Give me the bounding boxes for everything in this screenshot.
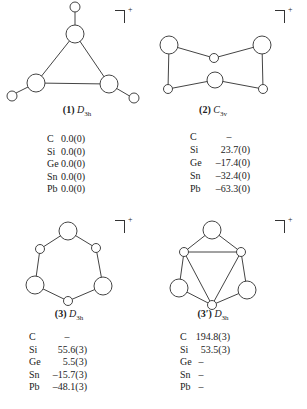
- energy-row: C–: [190, 130, 250, 143]
- structure-2-caption: (2) C3v: [176, 104, 250, 118]
- energy-value: 5.5(3): [47, 356, 87, 369]
- charge-sign: +: [288, 215, 293, 224]
- symmetry-sub: 3h: [84, 110, 91, 118]
- structure-3-panel: + (3) D3h C– Si55.6(3) Ge5.5(3) Sn–15.7(…: [0, 210, 154, 409]
- element: Sn: [180, 369, 194, 382]
- energy-value: –: [208, 130, 250, 143]
- atom-small: [129, 93, 139, 103]
- element: C: [190, 130, 208, 143]
- charge-bracket: [115, 10, 125, 23]
- energy-row: C194.8(3): [180, 331, 230, 344]
- symmetry-main: D: [214, 308, 221, 319]
- atom-small: [210, 54, 219, 63]
- energy-value: –17.4(0): [208, 156, 250, 169]
- energy-row: Sn–: [180, 369, 230, 382]
- element: Sn: [29, 369, 47, 382]
- atom-large: [170, 279, 188, 297]
- atom-large: [59, 222, 77, 240]
- symmetry-sub: 3h: [222, 314, 229, 322]
- structure-2-panel: + (2) C3v C– Si23.7(0) Ge–17.4(0) Sn–32.…: [154, 0, 307, 210]
- energy-value: 0.0(0): [61, 133, 85, 146]
- energy-value: 53.5(3): [194, 344, 230, 357]
- energy-value: 194.8(3): [194, 331, 230, 344]
- energy-row: C0.0(0): [47, 133, 85, 146]
- element: C: [47, 133, 61, 146]
- energy-value: 55.6(3): [47, 344, 87, 357]
- energy-value: –: [194, 381, 208, 394]
- charge-bracket: [115, 220, 125, 233]
- element: Sn: [47, 171, 61, 184]
- energy-row: Ge–: [180, 356, 230, 369]
- atom-small: [259, 85, 268, 94]
- structure-1-panel: + (1) D3h C0.0(0) Si0.0(0) Ge0.0(0) Sn0.…: [0, 0, 154, 210]
- energy-value: 23.7(0): [208, 143, 250, 156]
- atom-large: [94, 277, 112, 295]
- atom-large: [27, 74, 45, 92]
- element: Pb: [47, 183, 61, 196]
- element: Si: [29, 344, 47, 357]
- element: Si: [47, 146, 61, 159]
- energy-value: –: [194, 369, 208, 382]
- energy-value: 0.0(0): [61, 146, 85, 159]
- charge-sign: +: [128, 5, 133, 14]
- charge-sign: +: [128, 215, 133, 224]
- structure-3-caption: (3) D3h: [32, 308, 106, 322]
- atom-large: [26, 276, 44, 294]
- energy-row: Si0.0(0): [47, 146, 85, 159]
- energy-row: Si23.7(0): [190, 143, 250, 156]
- energy-row: Pb0.0(0): [47, 183, 85, 196]
- energy-row: Si53.5(3): [180, 344, 230, 357]
- atom-large: [203, 221, 221, 239]
- atom-small: [64, 297, 73, 306]
- charge-bracket: [275, 220, 285, 233]
- atom-small: [180, 248, 189, 257]
- atom-small: [36, 245, 45, 254]
- element: Ge: [180, 356, 194, 369]
- element: Pb: [180, 381, 194, 394]
- energy-value: –48.1(3): [47, 381, 87, 394]
- energy-row: Pb–: [180, 381, 230, 394]
- atom-large: [100, 75, 118, 93]
- energy-table-3: C– Si55.6(3) Ge5.5(3) Sn–15.7(3) Pb–48.1…: [29, 331, 87, 394]
- energy-row: Ge–17.4(0): [190, 156, 250, 169]
- energy-table-3prime: C194.8(3) Si53.5(3) Ge– Sn– Pb–: [180, 331, 230, 394]
- element: C: [29, 331, 47, 344]
- charge-sign: +: [288, 5, 293, 14]
- symmetry-sub: 3v: [220, 110, 227, 118]
- structure-label: (3): [55, 308, 67, 319]
- element: Pb: [190, 182, 208, 195]
- energy-value: –: [47, 331, 87, 344]
- energy-row: C–: [29, 331, 87, 344]
- energy-value: –63.3(0): [208, 182, 250, 195]
- energy-table-2: C– Si23.7(0) Ge–17.4(0) Sn–32.4(0) Pb–63…: [190, 130, 250, 195]
- structure-3prime-panel: + (3′) D3h C194.8(3) Si53.5(3) Ge– Sn– P…: [154, 210, 307, 409]
- structure-1-diagram: [0, 0, 154, 110]
- atom-large: [253, 36, 271, 54]
- energy-value: –: [194, 356, 208, 369]
- atom-small: [70, 2, 80, 12]
- energy-row: Si55.6(3): [29, 344, 87, 357]
- atom-large: [238, 281, 256, 299]
- structure-3prime-caption: (3′) D3h: [176, 308, 250, 322]
- element: Ge: [47, 158, 61, 171]
- energy-row: Pb–63.3(0): [190, 182, 250, 195]
- structure-label: (2): [199, 104, 211, 115]
- element: Ge: [190, 156, 208, 169]
- charge-bracket: [275, 10, 285, 23]
- atom-small: [164, 85, 173, 94]
- energy-value: –32.4(0): [208, 169, 250, 182]
- energy-value: 0.0(0): [61, 158, 85, 171]
- element: Ge: [29, 356, 47, 369]
- element: Pb: [29, 381, 47, 394]
- energy-row: Ge0.0(0): [47, 158, 85, 171]
- energy-row: Ge5.5(3): [29, 356, 87, 369]
- structure-label: (1): [63, 104, 75, 115]
- element: Si: [180, 344, 194, 357]
- energy-value: –15.7(3): [47, 369, 87, 382]
- atom-small: [7, 91, 17, 101]
- energy-row: Pb–48.1(3): [29, 381, 87, 394]
- atom-small: [237, 248, 246, 257]
- atom-large: [66, 25, 84, 43]
- atom-large: [160, 36, 178, 54]
- structure-3-diagram: [0, 210, 154, 320]
